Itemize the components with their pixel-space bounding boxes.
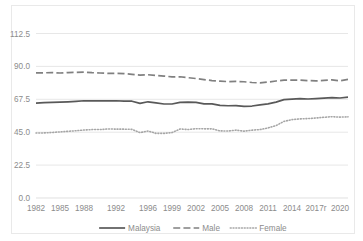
y-axis-tick-labels: 0.022.545.067.590.0112.5 [10, 30, 30, 204]
y-tick-label-67.5: 67.5 [14, 95, 30, 104]
chart-legend: MalaysiaMaleFemale [99, 224, 287, 233]
x-tick-label-1996: 1996 [139, 204, 158, 213]
x-tick-label-1988: 1988 [75, 204, 94, 213]
x-tick-label-2014: 2014 [283, 204, 302, 213]
series-lines-group [36, 72, 348, 133]
y-tick-label-45.0: 45.0 [14, 128, 30, 137]
legend-label-male: Male [202, 224, 220, 233]
x-tick-label-2005: 2005 [211, 204, 230, 213]
x-tick-label-2002: 2002 [187, 204, 206, 213]
x-tick-label-2020: 2020 [331, 204, 350, 213]
series-line-female [36, 117, 348, 134]
y-tick-label-90.0: 90.0 [14, 62, 30, 71]
x-tick-label-2017r: 2017r [306, 204, 327, 213]
y-tick-label-0.0: 0.0 [19, 194, 31, 203]
legend-label-malaysia: Malaysia [128, 224, 161, 233]
chart-figure: 0.022.545.067.590.0112.5 198219851988199… [0, 0, 363, 241]
y-tick-label-22.5: 22.5 [14, 161, 30, 170]
series-line-male [36, 72, 348, 83]
x-tick-label-1999: 1999 [163, 204, 182, 213]
x-tick-label-1992: 1992 [107, 204, 126, 213]
legend-label-female: Female [259, 224, 287, 233]
x-tick-label-1982: 1982 [27, 204, 46, 213]
x-axis-tick-labels: 1982198519881992199619992002200520082011… [27, 204, 350, 213]
y-tick-label-112.5: 112.5 [10, 30, 30, 39]
x-tick-label-2008: 2008 [235, 204, 254, 213]
gridlines-group [36, 34, 348, 199]
x-tick-label-2011: 2011 [259, 204, 277, 213]
series-line-malaysia [36, 97, 348, 106]
x-tick-label-1985: 1985 [51, 204, 70, 213]
line-chart: 0.022.545.067.590.0112.5 198219851988199… [0, 0, 363, 241]
